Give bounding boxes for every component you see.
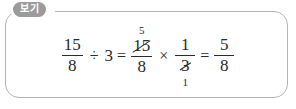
example-panel: 보기 5 15 8 1 5 ÷ 1 5 3 <box>0 0 296 109</box>
fraction-1-wrapper: 5 15 8 1 <box>59 24 86 87</box>
fraction-2-denominator: 8 <box>135 58 148 76</box>
equals-operator-2: = <box>198 47 211 65</box>
fraction-3-denominator-cancelled: 3 <box>181 57 190 75</box>
fraction-2: 15 8 <box>131 37 152 76</box>
fraction-4-numerator: 5 <box>218 36 231 54</box>
divisor-value: 3 <box>103 47 116 65</box>
equation-expression: 5 15 8 1 5 ÷ 1 5 3 1 <box>59 24 237 88</box>
equation-container: 5 15 8 1 5 ÷ 1 5 3 1 <box>0 11 296 98</box>
divide-operator: ÷ <box>86 47 103 65</box>
fraction-4-denominator: 8 <box>218 57 231 75</box>
fraction-1: 15 8 <box>62 36 83 75</box>
fraction-4-wrapper: 5 5 8 1 <box>211 24 237 87</box>
divide-operator-wrapper: 5 ÷ 1 <box>86 35 103 77</box>
fraction-3-numerator: 1 <box>179 36 192 54</box>
fraction-3-wrapper: 5 1 3 1 <box>172 24 198 88</box>
fraction-3: 1 3 <box>175 36 195 75</box>
fraction-2-wrapper: 5 15 8 1 <box>128 24 155 88</box>
fraction-1-denominator: 8 <box>66 57 79 75</box>
fraction-2-numerator: 15 <box>131 37 152 55</box>
equals-operator-1: = <box>115 47 128 65</box>
multiply-operator-wrapper: 5 × 1 <box>155 35 172 77</box>
fraction-2-cancel-value-above: 5 <box>139 24 145 36</box>
equals-2-wrapper: 5 = 1 <box>198 35 211 77</box>
fraction-2-numerator-cancelled: 15 <box>133 37 150 55</box>
fraction-4: 5 8 <box>214 36 234 75</box>
multiply-operator: × <box>155 47 172 65</box>
fraction-3-denominator: 3 <box>179 57 192 75</box>
divisor-wrapper: 5 3 1 <box>103 35 116 77</box>
equals-1-wrapper: 5 = 1 <box>115 35 128 77</box>
fraction-1-numerator: 15 <box>62 36 83 54</box>
fraction-3-cancel-value-below: 1 <box>182 76 188 88</box>
